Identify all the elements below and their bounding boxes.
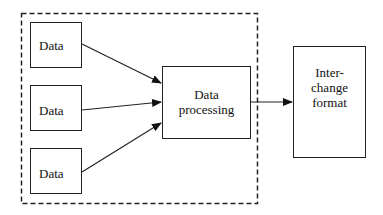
processing-label-line1: Data [163, 87, 250, 102]
interchange-format-box: Inter- change format [293, 46, 366, 158]
data-box-1: Data [30, 22, 82, 68]
interchange-format-label: Inter- change format [294, 65, 365, 110]
interchange-label-line2: change [294, 80, 365, 95]
data-box-3: Data [30, 148, 82, 194]
data-box-3-label: Data [39, 166, 64, 181]
data-processing-box: Data processing [162, 66, 251, 139]
interchange-label-line1: Inter- [294, 65, 365, 80]
data-box-2: Data [30, 85, 82, 131]
arrow-data2-to-processing [82, 102, 161, 110]
processing-label-line2: processing [163, 102, 250, 117]
data-box-2-label: Data [39, 103, 64, 118]
data-processing-label: Data processing [163, 87, 250, 117]
arrow-data1-to-processing [82, 44, 161, 83]
arrow-data3-to-processing [82, 123, 161, 172]
interchange-label-line3: format [294, 95, 365, 110]
data-box-1-label: Data [39, 38, 64, 53]
